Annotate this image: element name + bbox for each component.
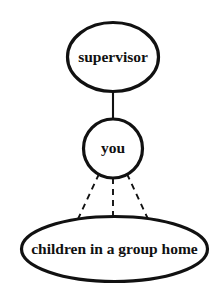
diagram-canvas: supervisor you children in a group home	[0, 0, 220, 295]
node-supervisor-label: supervisor	[78, 48, 148, 65]
node-you-label: you	[101, 139, 126, 156]
edge-you-to-children-left	[78, 174, 99, 219]
diagram-container: supervisor you children in a group home	[0, 0, 220, 295]
edge-you-to-children-right	[127, 174, 148, 219]
node-children-label: children in a group home	[31, 240, 198, 257]
